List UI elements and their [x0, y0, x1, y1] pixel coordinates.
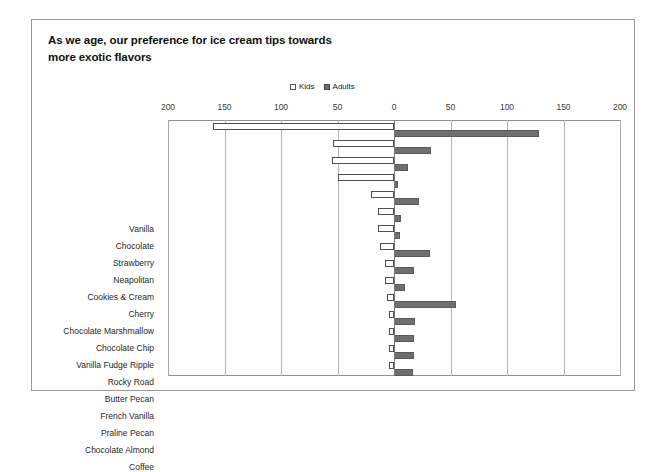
y-category-label: Praline Pecan [101, 428, 154, 438]
x-tick-label: 150 [556, 102, 570, 112]
y-category-label: Strawberry [113, 258, 154, 268]
bar-kids [213, 123, 394, 130]
bar-adults [394, 147, 431, 154]
bar-adults [394, 335, 414, 342]
bar-kids [387, 294, 394, 301]
y-category-label: Butter Pecan [105, 394, 154, 404]
y-category-label: Vanilla Fudge Ripple [76, 360, 154, 370]
legend-swatch-adults-icon [324, 84, 330, 90]
y-category-label: Cherry [128, 309, 154, 319]
gridline [564, 120, 565, 376]
y-category-label: Vanilla [129, 224, 154, 234]
bar-adults [394, 198, 419, 205]
zero-axis-line [394, 120, 395, 376]
legend-label-adults: Adults [333, 82, 355, 91]
legend-item-adults: Adults [324, 82, 355, 91]
bar-adults [394, 130, 539, 137]
chart-legend: Kids Adults [290, 82, 355, 91]
x-tick-label: 200 [161, 102, 175, 112]
bar-adults [394, 250, 430, 257]
x-tick-label: 50 [446, 102, 455, 112]
gridline [225, 120, 226, 376]
x-tick-label: 100 [274, 102, 288, 112]
x-tick-label: 100 [500, 102, 514, 112]
bar-adults [394, 164, 408, 171]
x-tick-label: 200 [613, 102, 627, 112]
bar-kids [371, 191, 394, 198]
bar-adults [394, 352, 414, 359]
gridline [168, 120, 169, 376]
y-category-label: Chocolate Marshmallow [63, 326, 154, 336]
legend-label-kids: Kids [299, 82, 315, 91]
bar-kids [378, 208, 394, 215]
y-category-label: Chocolate Chip [96, 343, 154, 353]
bar-adults [394, 267, 414, 274]
gridline [451, 120, 452, 376]
legend-swatch-kids-icon [290, 84, 296, 90]
y-category-label: Cookies & Cream [87, 292, 154, 302]
bar-adults [394, 284, 405, 291]
gridline [620, 120, 621, 376]
x-tick-label: 150 [217, 102, 231, 112]
y-category-label: French Vanilla [100, 411, 154, 421]
gridline [281, 120, 282, 376]
x-axis-tick-labels: 20015010050050100150200 [32, 102, 636, 118]
x-tick-label: 0 [392, 102, 397, 112]
bar-kids [333, 140, 394, 147]
bar-kids [378, 225, 394, 232]
y-category-label: Neapolitan [113, 275, 154, 285]
bar-kids [380, 243, 394, 250]
bar-kids [385, 277, 394, 284]
x-tick-label: 50 [333, 102, 342, 112]
chart-title: As we age, our preference for ice cream … [48, 32, 568, 66]
bar-kids [332, 157, 394, 164]
bar-adults [394, 318, 415, 325]
plot-area [168, 120, 620, 376]
y-category-label: Chocolate [116, 241, 154, 251]
bar-adults [394, 369, 413, 376]
y-category-label: Chocolate Almond [85, 445, 154, 455]
y-category-label: Coffee [129, 462, 154, 472]
bar-kids [338, 174, 395, 181]
bar-kids [385, 260, 394, 267]
bar-adults [394, 215, 401, 222]
chart-container: As we age, our preference for ice cream … [31, 19, 635, 391]
y-category-label: Rocky Road [108, 377, 154, 387]
y-axis-category-labels: VanillaChocolateStrawberryNeapolitanCook… [32, 120, 162, 376]
bar-adults [394, 301, 456, 308]
gridline [507, 120, 508, 376]
legend-item-kids: Kids [290, 82, 315, 91]
